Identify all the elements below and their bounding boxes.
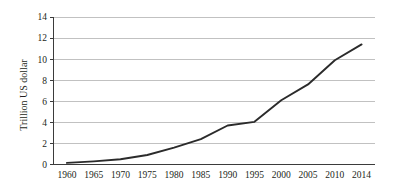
x-axis-tick-label: 1985 <box>191 170 210 180</box>
y-axis-tick-label: 2 <box>42 139 47 149</box>
y-axis-tick-label: 12 <box>38 33 48 43</box>
y-axis-tick-label: 14 <box>38 12 48 22</box>
x-axis-tick-label: 1960 <box>57 170 76 180</box>
x-axis-tick-label: 2005 <box>299 170 318 180</box>
x-axis-tick-label: 1980 <box>165 170 184 180</box>
x-axis-tick-label: 2000 <box>272 170 291 180</box>
y-axis-tick-label: 6 <box>42 97 47 107</box>
y-axis-tick-label: 0 <box>42 160 47 170</box>
chart-canvas: 02468101214 1960196519701975198019851990… <box>0 0 394 191</box>
x-axis-tick-label: 2014 <box>352 170 371 180</box>
x-axis-tick-label: 1990 <box>218 170 237 180</box>
y-axis-tick-label: 8 <box>42 76 47 86</box>
y-axis-title: Trillion US dollar <box>18 59 29 131</box>
y-axis-tick-label: 4 <box>42 118 47 128</box>
chart-background <box>0 0 394 191</box>
x-axis-tick-label: 1970 <box>111 170 130 180</box>
x-axis-tick-label: 1995 <box>245 170 264 180</box>
y-axis-tick-label: 10 <box>38 55 48 65</box>
x-axis-tick-label: 1965 <box>84 170 103 180</box>
x-axis-tick-label: 2010 <box>325 170 344 180</box>
x-axis-tick-label: 1975 <box>138 170 157 180</box>
chart-figure: 02468101214 1960196519701975198019851990… <box>0 0 394 191</box>
